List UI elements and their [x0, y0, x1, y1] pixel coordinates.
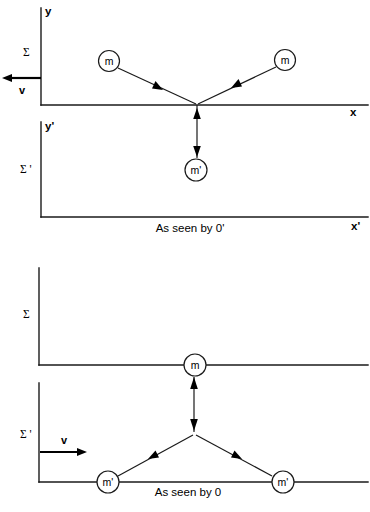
arrow-head-icon [193, 146, 201, 157]
bottom-outgoing-trajectory [190, 377, 198, 432]
bottom-mass-left: m' [97, 471, 119, 493]
top-outgoing-trajectory [193, 105, 201, 158]
top-velocity-arrow-left [2, 74, 41, 82]
top-sigma-prime-frame: m' y' x' Σ ' [20, 105, 368, 232]
arrow-head-icon [193, 108, 201, 119]
bottom-mass-right: m' [272, 471, 294, 493]
arrow-head-icon [2, 74, 12, 82]
arrow-head-icon [77, 448, 87, 456]
caption-top: As seen by 0' [156, 222, 225, 234]
arrow-head-icon [148, 451, 159, 460]
velocity-label: v [61, 434, 68, 446]
mass-label: m' [278, 476, 289, 488]
mass-label: m [281, 54, 290, 66]
top-mass-left: m [99, 51, 120, 72]
mass-label: m' [103, 476, 114, 488]
collision-diagram: m m y x Σ v [0, 0, 370, 512]
top-mass-right: m [275, 50, 296, 71]
frame-label-sigma-prime: Σ ' [20, 163, 32, 175]
top-right-trajectory [198, 67, 276, 104]
mass-label: m [105, 55, 114, 67]
bottom-mass-center: m [184, 354, 206, 376]
top-sigma-frame: m m y x Σ v [2, 5, 368, 118]
physics-figure: m m y x Σ v [0, 0, 370, 512]
axis-label-y: y [45, 5, 52, 17]
velocity-label: v [19, 84, 26, 96]
arrow-head-icon [231, 79, 242, 88]
bottom-sigma-prime-frame: m' m' Σ ' v [20, 377, 368, 493]
mass-label: m' [191, 164, 202, 176]
axis-label-x-prime: x' [351, 220, 360, 232]
caption-bottom: As seen by 0 [155, 486, 221, 498]
axis-label-x: x [350, 106, 357, 118]
arrow-head-icon [152, 81, 163, 90]
axis-label-y-prime: y' [45, 120, 54, 132]
bottom-left-trajectory [118, 435, 193, 476]
frame-label-sigma-prime: Σ ' [20, 428, 32, 440]
arrow-head-icon [190, 419, 198, 431]
arrow-head-icon [190, 377, 198, 389]
frame-label-sigma: Σ [23, 46, 30, 58]
frame-label-sigma: Σ [23, 308, 30, 320]
arrow-head-icon [231, 451, 242, 460]
mass-label: m [191, 359, 200, 371]
top-left-trajectory [118, 68, 196, 104]
bottom-sigma-frame: m Σ [23, 268, 368, 376]
bottom-right-trajectory [196, 435, 272, 476]
bottom-velocity-arrow-right [40, 448, 87, 456]
top-mass-prime: m' [185, 159, 207, 181]
